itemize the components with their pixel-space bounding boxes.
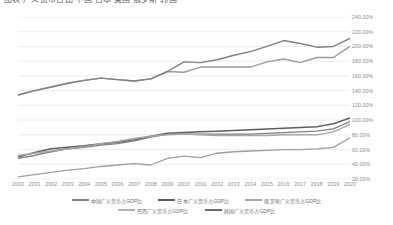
clipped-header-text: 图表 广义货币占比 中国 日本 美国 俄罗斯 韩国	[4, 0, 177, 4]
x-axis-tick-label: 2002	[45, 181, 57, 187]
legend-item[interactable]: 韩国广义货币占GDP比	[205, 207, 276, 214]
y-axis-tick-label: 120.00%	[352, 102, 373, 108]
y-axis-tick-label: 140.00%	[352, 88, 373, 94]
y-axis-tick-label: 100.00%	[352, 117, 373, 123]
x-axis-tick-label: 2005	[95, 181, 107, 187]
x-axis-tick-label: 2015	[261, 181, 273, 187]
x-axis-tick-label: 2009	[161, 181, 173, 187]
series-line	[18, 118, 350, 157]
x-axis-tick-label: 2006	[112, 181, 124, 187]
x-axis-tick-label: 2000	[12, 181, 24, 187]
plot-area	[18, 17, 350, 179]
x-axis-tick-label: 2019	[327, 181, 339, 187]
y-axis-tick-label: 220.00%	[352, 29, 373, 35]
legend-row-1: 中国广义货币占GDP比日本广义货币占GDP比俄罗斯广义货币占GDP比	[0, 195, 393, 205]
legend-item[interactable]: 中国广义货币占GDP比	[72, 197, 143, 204]
x-axis-tick-label: 2018	[311, 181, 323, 187]
y-axis-tick-label: 60.00%	[352, 147, 370, 153]
y-axis-tick-label: 80.00%	[352, 132, 370, 138]
x-axis-tick-label: 2016	[278, 181, 290, 187]
legend-color-swatch	[118, 209, 135, 211]
x-axis-tick-label: 2012	[211, 181, 223, 187]
y-axis-tick-label: 240.00%	[352, 14, 373, 20]
legend-row-2: 巴西广义货币占GDP比韩国广义货币占GDP比	[0, 205, 393, 215]
x-axis-tick-label: 2013	[228, 181, 240, 187]
y-axis: 240.00%220.00%200.00%180.00%160.00%140.0…	[352, 17, 393, 179]
legend-item-label: 巴西广义货币占GDP比	[137, 207, 189, 214]
x-axis-tick-label: 2020	[344, 181, 356, 187]
legend-item-label: 韩国广义货币占GDP比	[224, 207, 276, 214]
x-axis: 2000200120022003200420052006200720082009…	[18, 181, 350, 193]
legend-color-swatch	[205, 209, 222, 211]
series-line	[18, 125, 350, 156]
x-axis-tick-label: 2007	[128, 181, 140, 187]
line-chart: 240.00%220.00%200.00%180.00%160.00%140.0…	[0, 9, 393, 225]
y-axis-tick-label: 40.00%	[352, 161, 370, 167]
y-axis-tick-label: 200.00%	[352, 43, 373, 49]
y-axis-tick-label: 160.00%	[352, 73, 373, 79]
legend-item[interactable]: 俄罗斯广义货币占GDP比	[245, 197, 321, 204]
series-line	[18, 46, 350, 95]
x-axis-tick-label: 2004	[78, 181, 90, 187]
x-axis-tick-label: 2014	[244, 181, 256, 187]
x-axis-tick-label: 2011	[195, 181, 207, 187]
y-axis-tick-label: 180.00%	[352, 58, 373, 64]
x-axis-tick-label: 2010	[178, 181, 190, 187]
legend-item-label: 日本广义货币占GDP比	[177, 197, 229, 204]
legend-item-label: 中国广义货币占GDP比	[91, 197, 143, 204]
x-axis-tick-label: 2003	[62, 181, 74, 187]
series-lines	[18, 17, 350, 179]
legend-item[interactable]: 巴西广义货币占GDP比	[118, 207, 189, 214]
legend-item[interactable]: 日本广义货币占GDP比	[158, 197, 229, 204]
x-axis-tick-label: 2008	[145, 181, 157, 187]
x-axis-tick-label: 2017	[294, 181, 306, 187]
legend-color-swatch	[72, 199, 89, 201]
legend-item-label: 俄罗斯广义货币占GDP比	[264, 197, 321, 204]
series-line	[18, 38, 350, 95]
chart-legend: 中国广义货币占GDP比日本广义货币占GDP比俄罗斯广义货币占GDP比 巴西广义货…	[0, 195, 393, 221]
series-line	[18, 138, 350, 177]
clipped-header-strip: 图表 广义货币占比 中国 日本 美国 俄罗斯 韩国	[0, 0, 393, 9]
x-axis-tick-label: 2001	[29, 181, 41, 187]
legend-color-swatch	[245, 199, 262, 201]
legend-color-swatch	[158, 199, 175, 201]
